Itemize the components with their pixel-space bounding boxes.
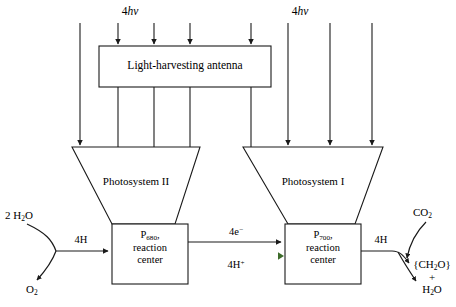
water-formula-h: H xyxy=(13,209,21,221)
oxygen-output-label: O2 xyxy=(26,284,38,297)
proton-flow-label: 4H+ xyxy=(214,259,258,270)
proton-charge: + xyxy=(240,259,244,267)
p700-suffix: , xyxy=(330,229,333,240)
p680-subscript: 680 xyxy=(146,234,157,242)
p700-line-center: center xyxy=(285,254,361,266)
water-input-curve xyxy=(27,224,56,251)
p700-reaction-center-label: P700, reaction center xyxy=(285,229,361,267)
co2-input-curve xyxy=(407,222,426,258)
electron-charge: − xyxy=(239,226,243,234)
electron-flow-label: 4e− xyxy=(214,226,258,237)
co2-subscript: 2 xyxy=(428,211,432,220)
protons-out-label: 4H xyxy=(364,234,398,245)
protons-from-p700-arrow xyxy=(361,251,409,263)
antenna-input-photon-arrows xyxy=(118,23,251,44)
p680-suffix: , xyxy=(157,229,160,240)
p680-line-reaction: reaction xyxy=(112,242,188,254)
oxygen-subscript: 2 xyxy=(34,288,38,297)
photon-label-right: 4hν xyxy=(278,5,322,17)
antenna-output-lines xyxy=(118,87,251,147)
water-formula-o: O xyxy=(25,209,33,221)
carbohydrate-suffix: O} xyxy=(438,258,451,270)
oxygen-output-curve xyxy=(37,251,56,280)
p700-line-reaction: reaction xyxy=(285,242,361,254)
p680-reaction-center-label: P680, reaction center xyxy=(112,229,188,267)
water-out-suffix: O xyxy=(434,283,442,295)
psi-direct-photon-arrows xyxy=(288,23,372,145)
p700-pigment-line: P700, xyxy=(285,229,361,242)
co2-formula: CO xyxy=(413,206,428,218)
water-out-formula: H xyxy=(422,283,430,295)
photosystem-ii-label: Photosystem II xyxy=(76,176,196,188)
p680-line-center: center xyxy=(112,254,188,266)
water-input-label: 2 H2O xyxy=(5,210,33,223)
water-output-line: H2O xyxy=(408,284,456,297)
photon-label-left: 4hν xyxy=(108,5,152,17)
water-coefficient: 2 xyxy=(5,209,11,221)
electron-count: 4e xyxy=(229,226,239,237)
photosystem-i-label: Photosystem I xyxy=(253,176,373,188)
co2-input-label: CO2 xyxy=(413,207,432,220)
oxygen-formula: O xyxy=(26,283,34,295)
p700-subscript: 700 xyxy=(319,234,330,242)
photon-symbol-right: hν xyxy=(297,5,308,17)
antenna-label: Light-harvesting antenna xyxy=(99,59,271,71)
carbohydrate-output-label: {CH2O} + H2O xyxy=(408,259,456,296)
carbohydrate-formula-line: {CH2O} xyxy=(408,259,456,272)
carbohydrate-prefix: {CH xyxy=(413,258,434,270)
p680-pigment-line: P680, xyxy=(112,229,188,242)
protons-in-label: 4H xyxy=(60,234,102,245)
photon-symbol-left: hν xyxy=(127,5,138,17)
photosynthesis-diagram: 4hν 4hν Light-harvesting antenna Photosy… xyxy=(0,0,456,307)
output-plus-sign: + xyxy=(408,272,456,284)
proton-count: 4H xyxy=(228,259,241,270)
